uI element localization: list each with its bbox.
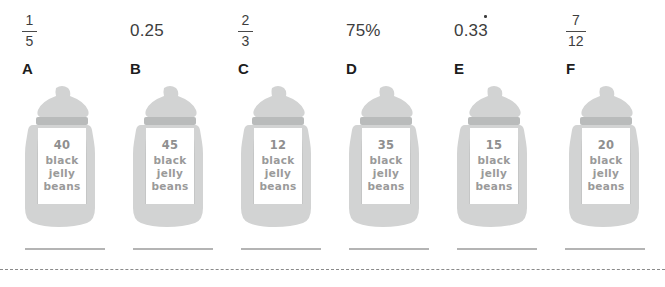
answer-line-1[interactable]	[25, 248, 105, 250]
jar-letter-e: E	[440, 60, 548, 82]
jar-letter-f: F	[552, 60, 660, 82]
value-text-4: 75%	[346, 21, 381, 41]
jar-label-line1: black	[262, 154, 295, 166]
jar-b: 45blackjellybeans	[116, 84, 224, 232]
jar-illustration: 40blackjellybeans	[16, 84, 108, 232]
jar-label-count: 12	[270, 139, 287, 153]
jar-label-line2: jelly	[373, 167, 399, 179]
jar-label-count: 40	[54, 139, 71, 153]
fraction-numerator: 2	[240, 13, 252, 28]
jar-label-line2: jelly	[49, 167, 75, 179]
jar-label-line3: beans	[260, 180, 297, 192]
fraction-1: 15	[22, 13, 37, 48]
jar-f: 20blackjellybeans	[552, 84, 660, 232]
jar-label-count: 45	[162, 139, 179, 153]
fraction-bar	[22, 31, 37, 32]
dashed-cut-line	[0, 269, 665, 271]
jar-label: 20blackjellybeans	[582, 128, 630, 204]
fraction-6: 712	[566, 13, 586, 48]
jar-illustration: 15blackjellybeans	[448, 84, 540, 232]
jar-label-line3: beans	[588, 180, 625, 192]
jar-label-line3: beans	[368, 180, 405, 192]
jar-label-line1: black	[46, 154, 79, 166]
fraction-denominator: 5	[24, 34, 36, 49]
jar-label-count: 15	[486, 139, 503, 153]
jar-label-line1: black	[370, 154, 403, 166]
jar-label-line1: black	[478, 154, 511, 166]
jars-row: 40blackjellybeans45blackjellybeans12blac…	[0, 84, 665, 232]
jar-label-line3: beans	[152, 180, 189, 192]
fraction-numerator: 1	[24, 13, 36, 28]
fraction-bar	[238, 31, 253, 32]
jar-label: 35blackjellybeans	[362, 128, 410, 204]
jar-letter-d: D	[332, 60, 440, 82]
value-cell-4: 75%	[332, 8, 440, 54]
jar-e: 15blackjellybeans	[440, 84, 548, 232]
jar-label-line3: beans	[476, 180, 513, 192]
letters-row: ABCDEF	[0, 60, 665, 82]
answer-line-2[interactable]	[133, 248, 213, 250]
jar-label: 12blackjellybeans	[254, 128, 302, 204]
jar-label-count: 20	[598, 139, 615, 153]
value-text-2: 0.25	[130, 21, 164, 41]
fraction-numerator: 7	[570, 13, 582, 28]
value-cell-1: 15	[8, 8, 116, 54]
jar-label-line2: jelly	[157, 167, 183, 179]
jar-label-count: 35	[378, 139, 395, 153]
jar-letter-a: A	[8, 60, 116, 82]
values-row: 150.252375%0.33712	[0, 8, 665, 54]
jar-illustration: 45blackjellybeans	[124, 84, 216, 232]
jar-c: 12blackjellybeans	[224, 84, 332, 232]
jar-d: 35blackjellybeans	[332, 84, 440, 232]
jar-a: 40blackjellybeans	[8, 84, 116, 232]
jar-label-line2: jelly	[593, 167, 619, 179]
value-cell-2: 0.25	[116, 8, 224, 54]
jar-label: 40blackjellybeans	[38, 128, 86, 204]
answer-line-4[interactable]	[349, 248, 429, 250]
value-cell-3: 23	[224, 8, 332, 54]
fraction-3: 23	[238, 13, 253, 48]
recurring-dot-icon	[484, 15, 487, 18]
recurring-decimal-text: 0.33	[454, 21, 488, 40]
jar-illustration: 20blackjellybeans	[560, 84, 652, 232]
answer-line-3[interactable]	[241, 248, 321, 250]
fraction-denominator: 3	[240, 34, 252, 49]
jar-letter-b: B	[116, 60, 224, 82]
jar-illustration: 12blackjellybeans	[232, 84, 324, 232]
value-cell-5: 0.33	[440, 8, 548, 54]
jar-label-line2: jelly	[481, 167, 507, 179]
jar-label-line2: jelly	[265, 167, 291, 179]
answer-line-5[interactable]	[457, 248, 537, 250]
jar-illustration: 35blackjellybeans	[340, 84, 432, 232]
jar-label-line1: black	[590, 154, 623, 166]
value-cell-6: 712	[552, 8, 660, 54]
jar-letter-c: C	[224, 60, 332, 82]
fraction-denominator: 12	[566, 34, 586, 49]
jar-label: 45blackjellybeans	[146, 128, 194, 204]
jar-label-line1: black	[154, 154, 187, 166]
jar-label-line3: beans	[44, 180, 81, 192]
fraction-bar	[566, 31, 586, 32]
answer-line-6[interactable]	[565, 248, 645, 250]
recurring-decimal-5: 0.33	[454, 21, 488, 41]
answer-lines-row	[0, 232, 665, 256]
jar-label: 15blackjellybeans	[470, 128, 518, 204]
